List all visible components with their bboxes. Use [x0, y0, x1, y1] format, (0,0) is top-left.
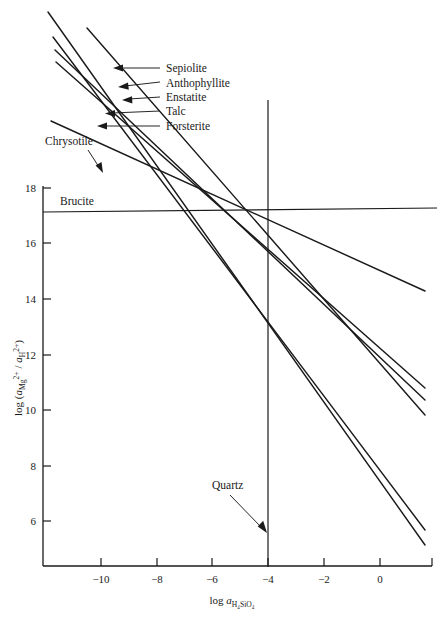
y-axis-title-sup-1: 2+ [12, 371, 21, 379]
line-brucite [43, 208, 437, 212]
y-tick-label: 8 [31, 460, 37, 472]
label-quartz: Quartz [212, 479, 243, 491]
line-anthophyllite [53, 37, 425, 530]
label-forsterite: Forsterite [166, 120, 210, 132]
x-tick-label: −2 [318, 573, 330, 585]
y-axis-title-suffix: ) [12, 340, 25, 344]
y-tick-label: 18 [25, 182, 37, 194]
label-sepiolite: Sepiolite [166, 62, 207, 75]
y-axis-title-sub-1: Mg [18, 379, 27, 390]
line-forsterite [56, 62, 425, 388]
x-axis-title-subscript: H₄SiO₄ [232, 600, 255, 609]
svg-text:log aH₄SiO₄: log aH₄SiO₄ [210, 594, 255, 609]
arrowhead-talc [105, 110, 115, 117]
axes-group [43, 186, 432, 566]
x-axis-title-prefix: log [210, 594, 227, 606]
leader-enstatite [129, 97, 160, 99]
mineral-stability-diagram: 18 16 14 12 10 8 6 −10 −8 −6 −4 −2 0 log… [0, 0, 445, 623]
label-anthophyllite: Anthophyllite [166, 77, 230, 90]
chart-canvas: 18 16 14 12 10 8 6 −10 −8 −6 −4 −2 0 log… [0, 0, 445, 623]
x-tick-marks [101, 558, 432, 566]
x-tick-labels: −10 −8 −6 −4 −2 0 [92, 573, 383, 585]
leader-anthophyllite [125, 82, 160, 86]
y-tick-marks [43, 188, 51, 521]
y-axis-title-prefix: log ( [12, 395, 25, 416]
label-talc: Talc [166, 105, 186, 117]
y-tick-label: 10 [25, 404, 37, 416]
y-tick-labels: 18 16 14 12 10 8 6 [25, 182, 37, 527]
y-axis-title-sup-2: 2+ [12, 344, 21, 352]
x-tick-label: −6 [206, 573, 218, 585]
arrowhead-forsterite [97, 122, 107, 129]
y-axis-title-slash: / [12, 363, 24, 372]
leader-chrysotile [88, 150, 99, 167]
x-tick-label: −8 [151, 573, 163, 585]
line-enstatite [87, 28, 425, 415]
data-lines-group [48, 12, 425, 545]
y-tick-label: 14 [25, 293, 37, 305]
y-tick-label: 12 [25, 349, 36, 361]
label-brucite: Brucite [60, 195, 94, 207]
arrowhead-anthophyllite [118, 83, 129, 90]
x-tick-label: −4 [262, 573, 274, 585]
arrowhead-enstatite [122, 96, 132, 103]
label-enstatite: Enstatite [166, 91, 206, 103]
leader-quartz [230, 495, 261, 527]
x-tick-label: 0 [377, 573, 383, 585]
line-chrysotile [51, 121, 425, 291]
y-tick-label: 16 [25, 237, 37, 249]
label-chrysotile: Chrysotile [45, 135, 93, 148]
x-tick-label: −10 [92, 573, 110, 585]
x-axis-title: log aH₄SiO₄ [210, 594, 255, 609]
arrowhead-sepiolite [113, 64, 123, 71]
line-sepiolite [48, 12, 425, 545]
y-tick-label: 6 [31, 515, 37, 527]
leader-lines-group [88, 64, 267, 533]
arrowhead-quartz [258, 521, 267, 533]
